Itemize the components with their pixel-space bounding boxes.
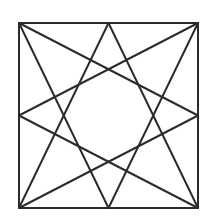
- star-lines: [19, 23, 198, 208]
- star-in-square-diagram: [0, 0, 214, 222]
- square-outline: [19, 23, 198, 208]
